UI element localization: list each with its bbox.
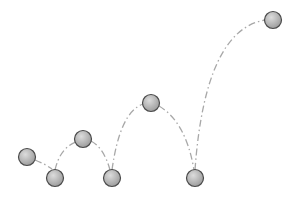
ball-bounce-3: [187, 170, 204, 187]
trajectory-segment: [35, 160, 52, 169]
ball-apex-2: [143, 95, 160, 112]
ball-apex-1: [75, 131, 92, 148]
ball-apex-3: [265, 12, 282, 29]
trajectory-segment: [91, 141, 110, 170]
ball-bounce-1: [47, 170, 64, 187]
ball-bounce-2: [104, 170, 121, 187]
trajectory-segment: [159, 106, 194, 170]
ball-position-1: [19, 149, 36, 166]
trajectory-segment: [195, 20, 265, 170]
trajectory-segment: [55, 142, 76, 170]
trajectory-segment: [112, 104, 143, 170]
bouncing-ball-diagram: [0, 0, 298, 202]
